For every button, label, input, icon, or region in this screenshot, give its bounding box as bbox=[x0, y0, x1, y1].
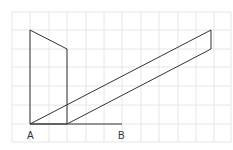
label-b: B bbox=[118, 130, 125, 141]
geometry-diagram: A B bbox=[0, 0, 233, 150]
label-a: A bbox=[27, 130, 34, 141]
